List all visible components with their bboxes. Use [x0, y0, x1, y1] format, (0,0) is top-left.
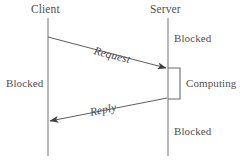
actor-label-server: Server [150, 4, 181, 16]
sequence-diagram-canvas: Client Server Blocked Blocked Computing … [0, 0, 246, 162]
state-label-server-computing: Computing [186, 78, 236, 89]
activation-bracket-computing [168, 68, 180, 99]
actor-label-client: Client [31, 4, 60, 16]
state-label-server-blocked-bottom: Blocked [174, 126, 211, 137]
state-label-server-blocked-top: Blocked [174, 33, 211, 44]
state-label-client-blocked: Blocked [6, 78, 43, 89]
